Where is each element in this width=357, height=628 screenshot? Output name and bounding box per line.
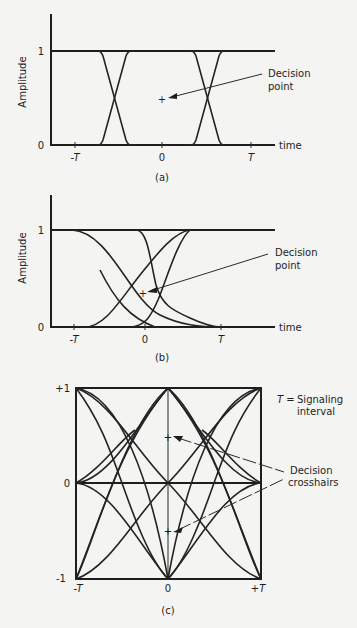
panel-c-ytick-plus1: +1 <box>55 383 70 394</box>
panel-a-annotation-arrow <box>172 74 262 97</box>
panel-c-xtick-0: 0 <box>165 583 171 594</box>
panel-b-xtick-0: 0 <box>142 334 148 345</box>
panel-b-caption: (b) <box>155 352 169 363</box>
panel-c-xtick-minus-T: -T <box>74 583 84 594</box>
panel-b-xtick-minus-T: -T <box>70 334 80 345</box>
panel-a-xtick-minus-T: -T <box>71 152 81 163</box>
panel-a-ytick-0: 0 <box>38 140 44 151</box>
panel-b-xtick-T: T <box>218 334 225 345</box>
panel-b-ytick-0: 0 <box>38 322 44 333</box>
panel-a: Amplitude 1 0 -T 0 T time + Decision poi… <box>17 14 311 183</box>
panel-b: Amplitude 1 0 -T 0 T time + Decision poi… <box>17 195 318 363</box>
panel-a-ylabel: Amplitude <box>17 56 28 107</box>
panel-c-xtick-plus-T: +T <box>251 583 266 594</box>
panel-c-annotation-line2: crosshairs <box>288 477 339 488</box>
panel-c-ytick-0: 0 <box>64 478 70 489</box>
panel-b-fast-rising-curve <box>132 230 190 327</box>
panel-a-ytick-1: 1 <box>38 46 44 57</box>
panel-c-legend-symbol: T = <box>277 394 295 405</box>
panel-b-decision-marker: + <box>139 288 147 299</box>
panel-c-ytick-minus1: -1 <box>56 573 66 584</box>
panel-c-lower-arrow <box>178 479 284 530</box>
panel-c-legend-line2: interval <box>297 406 335 417</box>
panel-c-upper-crosshair: + <box>164 432 172 443</box>
panel-b-xlabel: time <box>279 322 302 333</box>
panel-b-ylabel: Amplitude <box>17 232 28 283</box>
panel-a-rising-edge-1 <box>98 51 131 145</box>
panel-c-annotation-line1: Decision <box>290 465 333 476</box>
eye-diagram-figure: Amplitude 1 0 -T 0 T time + Decision poi… <box>0 0 357 628</box>
panel-c-lower-crosshair: + <box>164 526 172 537</box>
panel-b-ytick-1: 1 <box>38 225 44 236</box>
panel-a-xtick-0: 0 <box>159 152 165 163</box>
panel-a-decision-marker: + <box>158 94 166 105</box>
panel-c: +1 0 -1 -T 0 +T <box>55 383 343 616</box>
panel-c-legend-line1: Signaling <box>297 394 343 405</box>
panel-a-annotation-line2: point <box>268 81 294 92</box>
panel-c-caption: (c) <box>161 605 174 616</box>
panel-a-caption: (a) <box>155 172 169 183</box>
panel-a-rising-edge-2 <box>191 51 224 145</box>
panel-b-annotation-line1: Decision <box>275 247 318 258</box>
panel-a-xlabel: time <box>279 140 302 151</box>
panel-b-annotation-line2: point <box>275 260 301 271</box>
panel-a-xtick-T: T <box>248 152 255 163</box>
panel-a-annotation-line1: Decision <box>268 68 311 79</box>
